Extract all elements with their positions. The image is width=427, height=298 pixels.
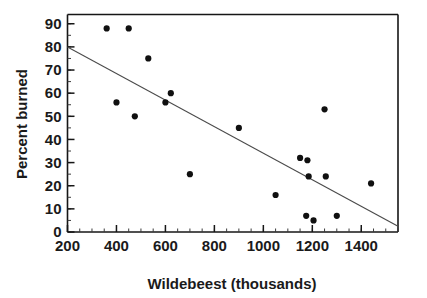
x-tick-label: 1200 xyxy=(296,237,329,254)
scatter-plot-figure: 200400600800100012001400 010203040506070… xyxy=(0,0,427,298)
y-tick-label: 50 xyxy=(45,108,62,125)
x-tick-label: 1400 xyxy=(345,237,378,254)
y-tick-label: 30 xyxy=(45,154,62,171)
y-tick-label: 70 xyxy=(45,61,62,78)
data-point xyxy=(323,173,329,179)
y-tick-label: 10 xyxy=(45,200,62,217)
x-axis-title: Wildebeest (thousands) xyxy=(147,275,316,292)
data-point xyxy=(297,155,303,161)
data-point xyxy=(145,55,151,61)
y-tick-label: 20 xyxy=(45,177,62,194)
data-point xyxy=(368,180,374,186)
data-point xyxy=(334,213,340,219)
y-tick-label: 40 xyxy=(45,131,62,148)
data-point xyxy=(303,213,309,219)
data-points xyxy=(104,25,375,223)
regression-trend-line xyxy=(68,47,399,226)
y-tick-label: 60 xyxy=(45,84,62,101)
y-axis-tick-labels: 0102030405060708090 xyxy=(45,15,62,240)
data-point xyxy=(187,171,193,177)
data-point xyxy=(104,25,110,31)
y-tick-label: 0 xyxy=(53,223,61,240)
x-axis-major-ticks xyxy=(68,225,362,232)
data-point xyxy=(126,25,132,31)
data-point xyxy=(162,99,168,105)
data-point xyxy=(310,217,316,223)
data-point xyxy=(304,157,310,163)
data-point xyxy=(306,173,312,179)
data-point xyxy=(168,90,174,96)
data-point xyxy=(236,125,242,131)
data-point xyxy=(321,106,327,112)
y-tick-label: 80 xyxy=(45,38,62,55)
y-axis-title: Percent burned xyxy=(13,69,30,179)
x-tick-label: 600 xyxy=(153,237,178,254)
plot-canvas: 200400600800100012001400 010203040506070… xyxy=(0,0,427,298)
data-point xyxy=(113,99,119,105)
x-axis-tick-labels: 200400600800100012001400 xyxy=(55,237,378,254)
y-tick-label: 90 xyxy=(45,15,62,32)
x-tick-label: 1000 xyxy=(247,237,280,254)
x-tick-label: 400 xyxy=(104,237,129,254)
data-point xyxy=(132,113,138,119)
x-tick-label: 800 xyxy=(202,237,227,254)
data-point xyxy=(272,192,278,198)
trend-line xyxy=(68,47,399,226)
